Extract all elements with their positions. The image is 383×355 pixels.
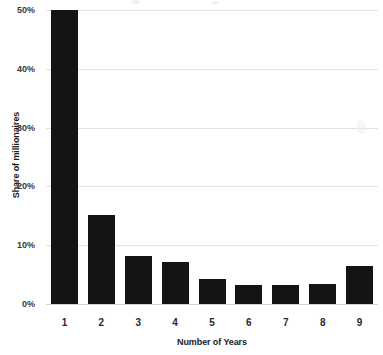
y-axis-tick-label: 40% [1,65,35,74]
bar [235,285,262,304]
bar-chart: Share of millionaires 0%10%20%30%40%50% … [0,0,383,355]
scan-artifact [212,1,219,4]
bar [309,284,336,304]
y-axis-tick-label: 50% [1,6,35,15]
x-axis-tick-label: 8 [303,318,343,328]
y-axis-tick-label: 30% [1,124,35,133]
x-axis-tick-label: 9 [340,318,380,328]
bar [125,256,152,304]
bar [162,262,189,304]
gridline [46,304,378,305]
x-axis-title: Number of Years [46,337,378,347]
bar [272,285,299,304]
x-axis-tick-label: 5 [192,318,232,328]
x-axis-tick-label: 1 [44,318,84,328]
scan-artifact [131,0,140,4]
x-axis-tick-label: 7 [266,318,306,328]
bars-layer [46,10,378,304]
x-axis-tick-label: 2 [81,318,121,328]
x-axis-tick-label: 4 [155,318,195,328]
bar [346,266,373,304]
y-axis-tick-label: 0% [1,300,35,309]
bar [199,279,226,304]
plot-area: 0%10%20%30%40%50% 123456789 [46,10,378,304]
x-axis-tick-label: 3 [118,318,158,328]
y-axis-tick-label: 20% [1,182,35,191]
scan-artifact [356,120,366,134]
y-axis-tick-label: 10% [1,241,35,250]
bar [51,10,78,304]
y-axis-title: Share of millionaires [11,85,21,225]
x-axis-tick-label: 6 [229,318,269,328]
bar [88,215,115,304]
